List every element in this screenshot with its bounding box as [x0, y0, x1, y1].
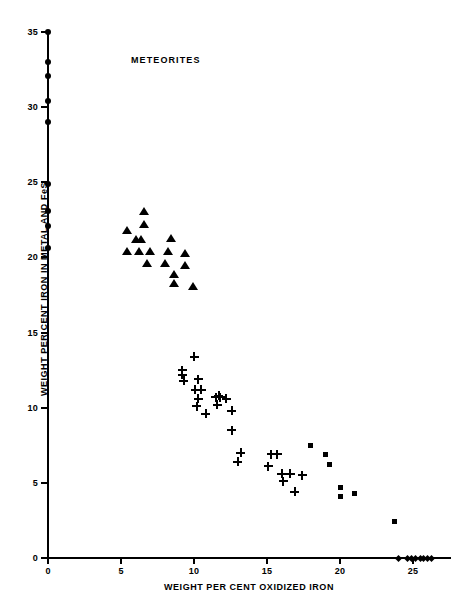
- x-tick-0: [47, 559, 49, 564]
- data-point-plus: [190, 352, 199, 361]
- data-point-triangle: [163, 247, 173, 255]
- y-tick-label-20: 20: [14, 252, 38, 262]
- data-point-square: [327, 462, 332, 467]
- x-tick-5: [120, 559, 122, 564]
- data-point-circle: [45, 73, 51, 79]
- data-point-square: [338, 485, 343, 490]
- data-point-square: [352, 491, 357, 496]
- data-point-square: [323, 452, 328, 457]
- data-point-plus: [179, 376, 188, 385]
- data-point-circle: [45, 59, 51, 65]
- data-point-plus: [298, 471, 307, 480]
- data-point-triangle: [142, 259, 152, 267]
- data-point-circle: [45, 119, 51, 125]
- y-axis-title: WEIGHT PER CENT IRON IN METAL AND FeS: [39, 139, 49, 439]
- data-point-triangle: [122, 247, 132, 255]
- data-point-plus: [194, 375, 203, 384]
- data-point-triangle: [145, 247, 155, 255]
- data-point-diamond: [428, 554, 435, 561]
- x-axis-title: WEIGHT PER CENT OXIDIZED IRON: [47, 582, 451, 592]
- data-point-triangle: [136, 235, 146, 243]
- data-point-circle: [45, 98, 51, 104]
- x-axis-line: [47, 557, 451, 559]
- x-tick-15: [266, 559, 268, 564]
- y-tick-label-5: 5: [14, 478, 38, 488]
- data-point-diamond: [395, 554, 402, 561]
- data-point-triangle: [139, 207, 149, 215]
- data-point-triangle: [166, 234, 176, 242]
- y-tick-30: [41, 106, 47, 108]
- data-point-triangle: [180, 261, 190, 269]
- x-tick-20: [339, 559, 341, 564]
- data-point-circle: [45, 29, 51, 35]
- data-point-plus: [222, 394, 231, 403]
- data-point-plus: [233, 457, 242, 466]
- y-tick-label-10: 10: [14, 403, 38, 413]
- data-point-triangle: [160, 259, 170, 267]
- x-tick-10: [193, 559, 195, 564]
- data-point-triangle: [180, 249, 190, 257]
- x-tick-label-0: 0: [34, 566, 62, 576]
- y-tick-label-25: 25: [14, 177, 38, 187]
- data-point-plus: [264, 462, 273, 471]
- data-point-triangle: [139, 220, 149, 228]
- meteorites-scatter-figure: METEORITES 05101520253035 0510152025 WEI…: [0, 0, 458, 605]
- data-point-plus: [201, 409, 210, 418]
- x-tick-label-10: 10: [180, 566, 208, 576]
- data-point-triangle: [188, 282, 198, 290]
- x-tick-label-15: 15: [253, 566, 281, 576]
- data-point-square: [392, 519, 397, 524]
- plot-title: METEORITES: [131, 55, 201, 65]
- data-point-plus: [279, 477, 288, 486]
- data-point-plus: [227, 406, 236, 415]
- data-point-triangle: [169, 270, 179, 278]
- data-point-triangle: [134, 247, 144, 255]
- y-tick-label-0: 0: [14, 553, 38, 563]
- data-point-triangle: [122, 226, 132, 234]
- y-tick-5: [41, 482, 47, 484]
- data-point-plus: [213, 400, 222, 409]
- data-point-plus: [236, 448, 245, 457]
- data-point-plus: [192, 402, 201, 411]
- y-tick-label-15: 15: [14, 328, 38, 338]
- data-point-plus: [197, 385, 206, 394]
- y-tick-label-35: 35: [14, 27, 38, 37]
- data-point-plus: [290, 487, 299, 496]
- data-point-square: [338, 494, 343, 499]
- x-tick-label-25: 25: [399, 566, 427, 576]
- data-point-plus: [273, 450, 282, 459]
- data-point-plus: [227, 426, 236, 435]
- data-point-square: [308, 443, 313, 448]
- data-point-triangle: [169, 279, 179, 287]
- y-tick-label-30: 30: [14, 102, 38, 112]
- x-tick-label-5: 5: [107, 566, 135, 576]
- x-tick-label-20: 20: [326, 566, 354, 576]
